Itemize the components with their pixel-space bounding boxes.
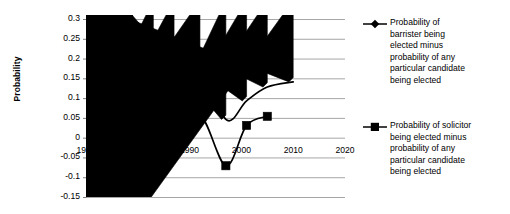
legend-label: Probability of solicitorbeing elected mi… [390, 120, 510, 178]
diamond-marker-icon [362, 18, 388, 30]
y-axis-tick-label: -0.15 [38, 192, 80, 201]
y-axis-tick-label: 0.1 [38, 93, 80, 102]
axis-lines [83, 19, 87, 198]
plot-area: 0.30.250.20.150.10.050-0.05-0.1-0.15 197… [0, 0, 360, 214]
y-axis-tick-label: 0.3 [38, 14, 80, 23]
data-point-square [149, 124, 157, 132]
chart-legend: Probability ofbarrister beingelected min… [362, 0, 510, 214]
x-axis-tick-label: 2020 [325, 146, 365, 155]
data-point-square [222, 162, 230, 170]
x-axis-tick-label: 1970 [66, 146, 106, 155]
x-axis-tick-label: 2010 [273, 146, 313, 155]
y-axis-tick-label: 0.2 [38, 54, 80, 63]
legend-label-line: probability of any [390, 143, 510, 155]
x-axis-tick-label: 2000 [221, 146, 261, 155]
legend-label-line: Probability of [390, 17, 510, 29]
chart-canvas [0, 0, 360, 214]
data-point-square [263, 112, 271, 120]
legend-label-line: barrister being [390, 29, 510, 41]
legend-label-line: probability of any [390, 52, 510, 64]
legend-label-line: elected minus [390, 40, 510, 52]
data-point-square [103, 179, 111, 187]
legend-label-line: particular candidate [390, 63, 510, 75]
legend-label-line: being elected minus [390, 132, 510, 144]
chart-figure: Probability 0.30.250.20.150.10.050-0.05-… [0, 0, 510, 214]
data-point-square [196, 111, 204, 119]
data-point-square [129, 167, 137, 175]
data-point-square [242, 121, 250, 129]
x-axis-tick-label: 1990 [170, 146, 210, 155]
y-axis-tick-label: 0.25 [38, 34, 80, 43]
y-axis-tick-label: -0.1 [38, 172, 80, 181]
y-axis-tick-label: 0.15 [38, 73, 80, 82]
x-axis-tick-label: 1980 [118, 146, 158, 155]
square-marker-icon [362, 121, 388, 133]
y-axis-tick-label: 0 [38, 133, 80, 142]
y-axis-tick-label: 0.05 [38, 113, 80, 122]
legend-label-line: being elected [390, 166, 510, 178]
legend-label-line: Probability of solicitor [390, 120, 510, 132]
legend-label: Probability ofbarrister beingelected min… [390, 17, 510, 87]
legend-label-line: being elected [390, 75, 510, 87]
legend-label-line: particular candidate [390, 155, 510, 167]
